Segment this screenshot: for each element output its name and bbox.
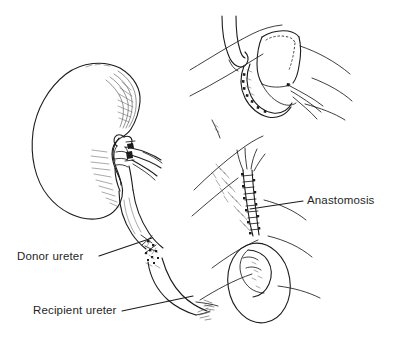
illustration-canvas	[0, 0, 400, 340]
oval-tissue-patch	[222, 239, 296, 328]
inset-suture-loops	[241, 64, 323, 119]
inset-ureter-barrel	[257, 31, 301, 87]
label-recipient-ureter: Recipient ureter	[33, 305, 117, 317]
spatulated-ureter-inset	[190, 16, 352, 138]
kidney-upper-shading	[86, 64, 136, 128]
main-anastomosis-sutures	[141, 235, 160, 268]
anastomosis-background-tissue	[192, 136, 320, 300]
inset-background-tissue	[190, 25, 352, 120]
leader-lines	[99, 201, 303, 311]
donor-kidney-panel	[32, 63, 212, 320]
inset-lower-flick	[212, 120, 220, 138]
label-anastomosis: Anastomosis	[307, 195, 374, 207]
medical-illustration-figure: Donor ureter Recipient ureter Anastomosi…	[0, 0, 400, 340]
leader-recipient-ureter	[122, 296, 193, 311]
completed-anastomosis-inset	[192, 136, 320, 327]
running-suture-line	[237, 148, 265, 236]
renal-hilum	[113, 135, 133, 191]
donor-ureter-tube	[119, 190, 163, 249]
leader-anastomosis	[250, 201, 303, 209]
recipient-ureter-tube	[148, 258, 212, 320]
kidney-medial-hatching	[91, 150, 119, 207]
kidney-outline	[32, 63, 140, 219]
label-donor-ureter: Donor ureter	[17, 251, 83, 263]
